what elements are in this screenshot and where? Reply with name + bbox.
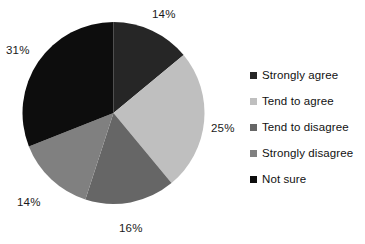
chart-legend: Strongly agreeTend to agreeTend to disag… (250, 64, 365, 194)
legend-item-label: Tend to disagree (262, 121, 349, 133)
slice-label-tend-to-agree: 25% (211, 122, 235, 134)
legend-item-label: Strongly agree (262, 69, 338, 81)
slice-label-strongly-agree: 14% (152, 8, 176, 20)
pie-slice-group (22, 22, 204, 204)
slice-label-not-sure: 31% (6, 44, 30, 56)
legend-item-label: Not sure (262, 173, 306, 185)
legend-swatch-icon (250, 176, 257, 183)
legend-item[interactable]: Strongly agree (250, 64, 365, 86)
pie-chart: 14% 25% 16% 14% 31% Strongly agreeTend t… (0, 0, 365, 244)
legend-item-label: Strongly disagree (262, 147, 353, 159)
legend-item[interactable]: Tend to agree (250, 90, 365, 112)
legend-swatch-icon (250, 98, 257, 105)
legend-swatch-icon (250, 72, 257, 79)
legend-item[interactable]: Tend to disagree (250, 116, 365, 138)
legend-item[interactable]: Not sure (250, 168, 365, 190)
slice-label-strongly-disagree: 14% (17, 196, 41, 208)
legend-item[interactable]: Strongly disagree (250, 142, 365, 164)
legend-item-label: Tend to agree (262, 95, 334, 107)
legend-swatch-icon (250, 124, 257, 131)
slice-label-tend-to-disagree: 16% (119, 222, 143, 234)
legend-swatch-icon (250, 150, 257, 157)
